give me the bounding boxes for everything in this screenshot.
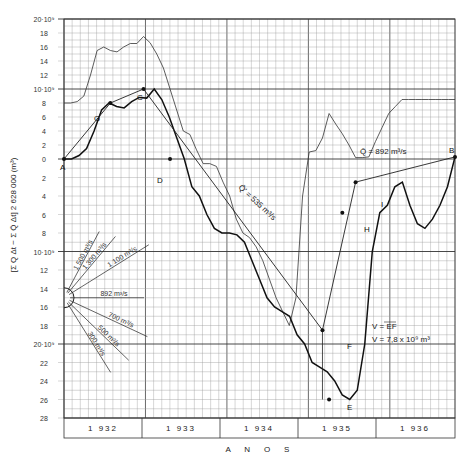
- svg-text:12: 12: [40, 72, 48, 79]
- svg-text:14: 14: [40, 58, 48, 65]
- svg-text:6: 6: [42, 114, 46, 121]
- regulated-flow-label: Q̄' = 535 m³/s: [237, 183, 278, 222]
- y-axis-label: [Σ Q Δt − Σ Q̄ Δt] 2 628 000 (m³): [9, 157, 18, 272]
- y-axis-ticks: 20·10⁹1816141210·10⁹86420246810·10⁹12141…: [34, 16, 55, 422]
- svg-text:10·10⁹: 10·10⁹: [34, 249, 55, 256]
- svg-text:24: 24: [40, 378, 48, 385]
- svg-text:18: 18: [40, 30, 48, 37]
- svg-text:28: 28: [40, 415, 48, 422]
- point-label-B: B: [449, 146, 454, 155]
- svg-text:14: 14: [40, 286, 48, 293]
- svg-text:892 m³/s: 892 m³/s: [100, 290, 128, 297]
- svg-text:12: 12: [40, 267, 48, 274]
- svg-text:16: 16: [40, 44, 48, 51]
- svg-text:4: 4: [42, 193, 46, 200]
- svg-text:8: 8: [42, 230, 46, 237]
- mean-flow-label: Q̄ = 892 m³/s: [360, 147, 406, 156]
- grid: [58, 19, 455, 418]
- point-label-E: E: [347, 403, 352, 412]
- year-strip: 1 932 1 933 1 934 1 935 1 936: [64, 418, 455, 438]
- svg-text:20·10⁹: 20·10⁹: [34, 341, 55, 348]
- svg-text:22: 22: [40, 360, 48, 367]
- svg-text:26: 26: [40, 397, 48, 404]
- year-1933: 1 933: [166, 424, 196, 433]
- x-axis-label: A N O S: [226, 445, 291, 454]
- volume-value: V = 7,8 x 10⁹ m³: [372, 335, 430, 344]
- svg-text:6: 6: [42, 212, 46, 219]
- point-label-D: D: [157, 176, 163, 185]
- svg-text:16: 16: [40, 304, 48, 311]
- svg-text:8: 8: [42, 100, 46, 107]
- point-label-A: A: [60, 163, 66, 172]
- year-1934: 1 934: [244, 424, 274, 433]
- svg-text:2: 2: [42, 175, 46, 182]
- rate-fan: 1 500 m³/s1 300 m³/s1 100 m³/s892 m³/s70…: [64, 232, 149, 373]
- svg-text:0: 0: [42, 156, 46, 163]
- mass-curve-chart: 20·10⁹1816141210·10⁹86420246810·10⁹12141…: [0, 0, 467, 458]
- point-label-F: F: [347, 342, 352, 351]
- year-1936: 1 936: [400, 424, 430, 433]
- svg-text:20·10⁹: 20·10⁹: [34, 16, 55, 23]
- point-label-I: I: [381, 200, 383, 209]
- point-label-C: C: [137, 93, 143, 102]
- volume-definition: V = EF: [372, 322, 397, 331]
- svg-text:4: 4: [42, 128, 46, 135]
- svg-text:2: 2: [42, 142, 46, 149]
- svg-text:1 100 m³/s: 1 100 m³/s: [106, 245, 138, 269]
- point-label-H: H: [364, 225, 370, 234]
- year-1932: 1 932: [88, 424, 118, 433]
- svg-text:10·10⁹: 10·10⁹: [34, 86, 55, 93]
- year-1935: 1 935: [322, 424, 352, 433]
- svg-text:18: 18: [40, 323, 48, 330]
- point-label-G: G: [94, 114, 100, 123]
